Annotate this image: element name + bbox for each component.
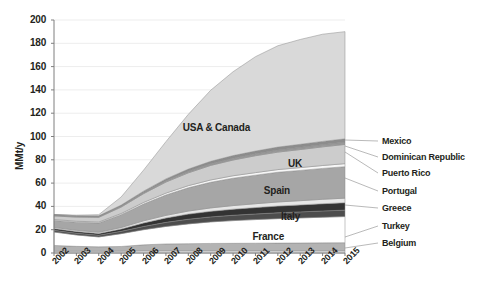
inline-label-france: France bbox=[252, 231, 284, 242]
y-tick-label: 20 bbox=[12, 224, 46, 235]
legend-label-dominican-republic: Dominican Republic bbox=[382, 152, 465, 162]
legend-label-portugal: Portugal bbox=[382, 186, 417, 196]
y-tick-label: 180 bbox=[12, 37, 46, 48]
legend-label-belgium: Belgium bbox=[382, 238, 416, 248]
inline-label-spain: Spain bbox=[264, 185, 290, 196]
legend-leader-line bbox=[345, 205, 378, 208]
y-tick-label: 60 bbox=[12, 177, 46, 188]
legend-leader-line bbox=[345, 243, 378, 248]
inline-label-italy: Italy bbox=[281, 211, 300, 222]
inline-label-usa-canada: USA & Canada bbox=[183, 122, 250, 133]
y-tick-label: 200 bbox=[12, 14, 46, 25]
y-tick-label: 120 bbox=[12, 107, 46, 118]
y-tick-label: 0 bbox=[12, 247, 46, 258]
y-tick-label: 140 bbox=[12, 84, 46, 95]
legend-label-greece: Greece bbox=[382, 203, 411, 213]
legend-leader-line bbox=[345, 226, 378, 237]
legend-leader-line bbox=[345, 178, 378, 191]
y-tick-label: 100 bbox=[12, 131, 46, 142]
legend-label-puerto-rico: Puerto Rico bbox=[382, 168, 430, 178]
inline-label-uk: UK bbox=[288, 158, 302, 169]
y-tick-label: 160 bbox=[12, 61, 46, 72]
legend-leader-line bbox=[345, 140, 378, 141]
chart-container: 020406080100120140160180200 200220032004… bbox=[0, 0, 479, 302]
legend-label-mexico: Mexico bbox=[382, 136, 411, 146]
y-tick-label: 40 bbox=[12, 200, 46, 211]
y-axis-title: MMt/y bbox=[14, 142, 25, 170]
legend-label-turkey: Turkey bbox=[382, 221, 410, 231]
